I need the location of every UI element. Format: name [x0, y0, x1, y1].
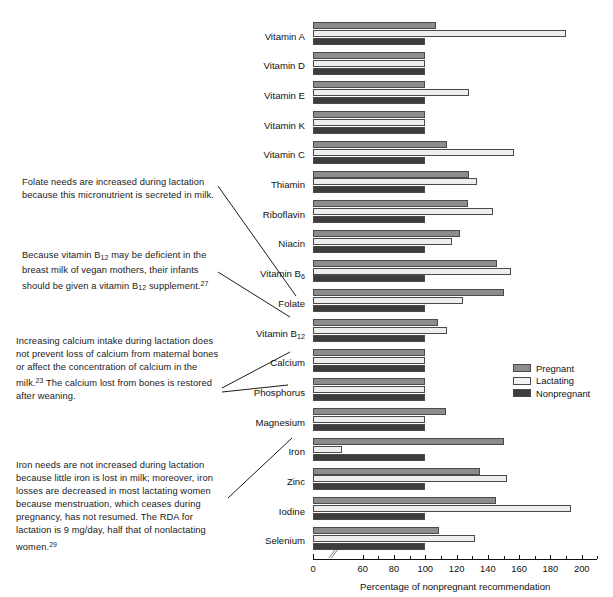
bar-nonpregnant: [313, 483, 425, 490]
bar-nonpregnant: [313, 275, 425, 282]
bar-pregnant: [313, 230, 460, 237]
bar-pregnant: [313, 141, 447, 148]
legend-item: Nonpregnant: [513, 387, 590, 400]
x-axis-tick-label: 120: [449, 563, 465, 574]
bar-lactating: [313, 327, 447, 334]
bar-pregnant: [313, 438, 504, 445]
bar-pregnant: [313, 81, 425, 88]
bar-nonpregnant: [313, 97, 425, 104]
bar-nonpregnant: [313, 246, 425, 253]
category-label: Vitamin A: [223, 31, 305, 42]
bar-pregnant: [313, 289, 504, 296]
category-label: Vitamin B12: [223, 328, 305, 341]
bar-chart: Vitamin AVitamin DVitamin EVitamin KVita…: [0, 0, 613, 597]
legend-swatch-nonpregnant: [513, 389, 531, 397]
bar-lactating: [313, 535, 475, 542]
category-label: Iodine: [223, 506, 305, 517]
category-label: Phosphorus: [223, 387, 305, 398]
bar-pregnant: [313, 200, 468, 207]
x-axis-minor-tick: [441, 556, 442, 559]
x-axis-minor-tick: [378, 556, 379, 559]
x-axis-tick-label: 140: [480, 563, 496, 574]
bar-lactating: [313, 149, 514, 156]
chart-legend: PregnantLactatingNonpregnant: [513, 362, 590, 400]
x-axis-tick: [394, 555, 395, 559]
category-label: Riboflavin: [223, 209, 305, 220]
bar-pregnant: [313, 111, 425, 118]
bar-lactating: [313, 119, 425, 126]
bar-lactating: [313, 178, 477, 185]
x-axis-line: [313, 559, 597, 560]
bar-nonpregnant: [313, 38, 425, 45]
bar-pregnant: [313, 319, 438, 326]
bar-pregnant: [313, 171, 469, 178]
bar-nonpregnant: [313, 216, 425, 223]
bar-nonpregnant: [313, 127, 425, 134]
bar-lactating: [313, 505, 571, 512]
legend-swatch-pregnant: [513, 364, 531, 372]
bar-lactating: [313, 208, 493, 215]
category-label: Folate: [223, 298, 305, 309]
x-axis-tick-label: 60: [357, 563, 367, 574]
x-axis-tick: [550, 555, 551, 559]
bar-nonpregnant: [313, 68, 425, 75]
bar-nonpregnant: [313, 305, 425, 312]
bar-lactating: [313, 60, 425, 67]
bar-lactating: [313, 268, 511, 275]
legend-item: Lactating: [513, 375, 590, 388]
bar-nonpregnant: [313, 365, 425, 372]
category-label: Vitamin E: [223, 90, 305, 101]
legend-item: Pregnant: [513, 362, 590, 375]
bar-lactating: [313, 297, 463, 304]
x-axis-tick-label: 100: [417, 563, 433, 574]
legend-label: Nonpregnant: [536, 388, 590, 399]
x-axis-origin-tick: [313, 554, 314, 559]
legend-label: Pregnant: [536, 363, 574, 374]
legend-label: Lactating: [536, 375, 574, 386]
category-label: Iron: [223, 446, 305, 457]
category-label: Vitamin B6: [223, 268, 305, 281]
category-label: Zinc: [223, 476, 305, 487]
bar-nonpregnant: [313, 543, 425, 550]
category-label: Niacin: [223, 238, 305, 249]
x-axis-tick-label: 80: [389, 563, 399, 574]
bar-pregnant: [313, 378, 425, 385]
x-axis-title: Percentage of nonpregnant recommendation: [360, 581, 550, 592]
x-axis-tick: [425, 555, 426, 559]
x-axis-tick: [457, 555, 458, 559]
x-axis-tick: [363, 555, 364, 559]
category-label: Vitamin C: [223, 149, 305, 160]
bar-nonpregnant: [313, 513, 425, 520]
x-axis-minor-tick: [566, 556, 567, 559]
bar-lactating: [313, 446, 342, 453]
bar-lactating: [313, 416, 425, 423]
category-label: Vitamin D: [223, 60, 305, 71]
legend-swatch-lactating: [513, 377, 531, 385]
bar-nonpregnant: [313, 157, 425, 164]
x-axis-minor-tick: [504, 556, 505, 559]
bar-pregnant: [313, 497, 496, 504]
x-axis-tick: [582, 555, 583, 559]
category-label: Vitamin K: [223, 120, 305, 131]
bar-lactating: [313, 475, 507, 482]
bar-pregnant: [313, 527, 439, 534]
bar-lactating: [313, 357, 425, 364]
bar-lactating: [313, 89, 469, 96]
bar-nonpregnant: [313, 454, 425, 461]
x-axis-tick-label: 200: [574, 563, 590, 574]
bar-pregnant: [313, 260, 497, 267]
x-axis-tick-label: 160: [511, 563, 527, 574]
bar-nonpregnant: [313, 394, 425, 401]
category-label: Magnesium: [223, 417, 305, 428]
bar-pregnant: [313, 22, 436, 29]
x-axis-tick: [519, 555, 520, 559]
bar-nonpregnant: [313, 186, 425, 193]
category-label: Selenium: [223, 535, 305, 546]
x-axis-tick-label: 180: [543, 563, 559, 574]
bar-pregnant: [313, 52, 425, 59]
bar-lactating: [313, 30, 566, 37]
category-label: Calcium: [223, 357, 305, 368]
bar-lactating: [313, 238, 452, 245]
bar-pregnant: [313, 408, 446, 415]
category-label: Thiamin: [223, 179, 305, 190]
